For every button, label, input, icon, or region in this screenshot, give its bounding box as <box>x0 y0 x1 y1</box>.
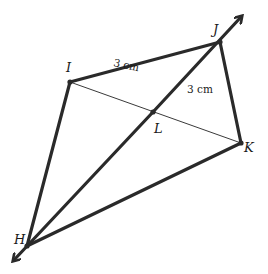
segment-JK <box>220 42 241 143</box>
label-J: J <box>210 22 219 37</box>
line-HJ-arrow-up <box>153 17 241 112</box>
kite-diagram: I J K L H 3 cm 3 cm <box>0 0 268 274</box>
point-K <box>238 140 243 145</box>
point-L <box>150 109 155 114</box>
segment-KH <box>27 143 241 246</box>
label-H: H <box>13 232 26 247</box>
measurement-JL: 3 cm <box>187 83 213 95</box>
label-L: L <box>153 121 163 136</box>
label-K: K <box>243 140 255 155</box>
line-HJ-arrow-down <box>14 112 153 260</box>
point-I <box>67 79 72 84</box>
point-J <box>217 39 222 44</box>
label-I: I <box>65 60 72 75</box>
